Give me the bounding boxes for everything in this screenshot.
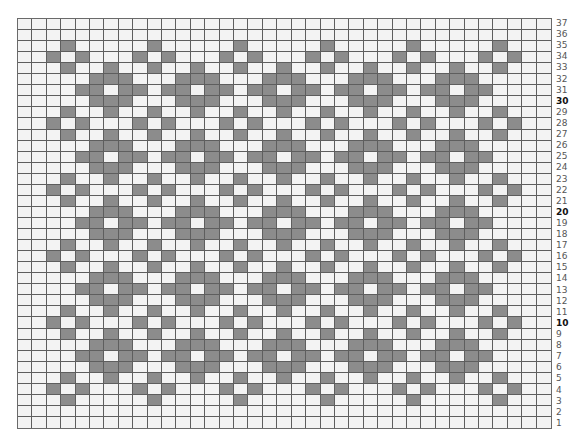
empty-cell	[407, 295, 421, 306]
filled-cell	[321, 240, 335, 251]
filled-cell	[407, 395, 421, 406]
empty-cell	[421, 141, 435, 152]
empty-cell	[133, 395, 147, 406]
filled-cell	[306, 52, 320, 63]
filled-cell	[162, 218, 176, 229]
filled-cell	[61, 306, 75, 317]
empty-cell	[220, 41, 234, 52]
filled-cell	[421, 284, 435, 295]
empty-cell	[522, 19, 536, 30]
empty-cell	[522, 30, 536, 41]
empty-cell	[61, 406, 75, 417]
filled-cell	[104, 273, 118, 284]
empty-cell	[537, 229, 551, 240]
empty-cell	[493, 340, 507, 351]
empty-cell	[263, 63, 277, 74]
empty-cell	[263, 174, 277, 185]
empty-cell	[292, 417, 306, 428]
filled-cell	[220, 317, 234, 328]
filled-cell	[465, 74, 479, 85]
empty-cell	[364, 85, 378, 96]
filled-cell	[176, 295, 190, 306]
empty-cell	[220, 107, 234, 118]
empty-cell	[465, 395, 479, 406]
filled-cell	[465, 351, 479, 362]
empty-cell	[537, 284, 551, 295]
empty-cell	[450, 118, 464, 129]
empty-cell	[47, 417, 61, 428]
empty-cell	[205, 417, 219, 428]
empty-cell	[61, 163, 75, 174]
filled-cell	[292, 273, 306, 284]
filled-cell	[364, 240, 378, 251]
empty-cell	[335, 417, 349, 428]
empty-cell	[522, 229, 536, 240]
filled-cell	[76, 118, 90, 129]
filled-cell	[277, 306, 291, 317]
empty-cell	[18, 107, 32, 118]
empty-cell	[450, 351, 464, 362]
filled-cell	[321, 373, 335, 384]
empty-cell	[234, 251, 248, 262]
empty-cell	[263, 384, 277, 395]
empty-cell	[306, 30, 320, 41]
empty-cell	[76, 41, 90, 52]
empty-cell	[191, 351, 205, 362]
filled-cell	[378, 229, 392, 240]
empty-cell	[321, 362, 335, 373]
row-label: 6	[556, 362, 581, 373]
empty-cell	[537, 207, 551, 218]
empty-cell	[162, 340, 176, 351]
empty-cell	[335, 174, 349, 185]
empty-cell	[493, 96, 507, 107]
filled-cell	[104, 196, 118, 207]
empty-cell	[162, 240, 176, 251]
empty-cell	[292, 384, 306, 395]
empty-cell	[522, 63, 536, 74]
chart-cells	[18, 19, 551, 428]
empty-cell	[205, 373, 219, 384]
empty-cell	[277, 251, 291, 262]
filled-cell	[277, 174, 291, 185]
empty-cell	[76, 96, 90, 107]
empty-cell	[133, 96, 147, 107]
filled-cell	[248, 85, 262, 96]
filled-cell	[104, 262, 118, 273]
empty-cell	[133, 207, 147, 218]
empty-cell	[349, 130, 363, 141]
empty-cell	[234, 384, 248, 395]
empty-cell	[450, 85, 464, 96]
empty-cell	[234, 19, 248, 30]
empty-cell	[119, 317, 133, 328]
empty-cell	[537, 218, 551, 229]
empty-cell	[248, 63, 262, 74]
filled-cell	[162, 52, 176, 63]
empty-cell	[537, 96, 551, 107]
empty-cell	[47, 395, 61, 406]
filled-cell	[248, 52, 262, 63]
empty-cell	[306, 196, 320, 207]
filled-cell	[176, 74, 190, 85]
empty-cell	[364, 417, 378, 428]
empty-cell	[90, 251, 104, 262]
empty-cell	[450, 317, 464, 328]
filled-cell	[205, 218, 219, 229]
filled-cell	[47, 52, 61, 63]
empty-cell	[421, 196, 435, 207]
empty-cell	[90, 329, 104, 340]
filled-cell	[220, 284, 234, 295]
empty-cell	[436, 118, 450, 129]
filled-cell	[349, 340, 363, 351]
empty-cell	[148, 362, 162, 373]
filled-cell	[479, 351, 493, 362]
filled-cell	[421, 317, 435, 328]
empty-cell	[321, 74, 335, 85]
empty-cell	[47, 85, 61, 96]
empty-cell	[393, 417, 407, 428]
row-label: 26	[556, 140, 581, 151]
empty-cell	[263, 185, 277, 196]
empty-cell	[133, 19, 147, 30]
empty-cell	[277, 30, 291, 41]
empty-cell	[76, 229, 90, 240]
empty-cell	[450, 41, 464, 52]
